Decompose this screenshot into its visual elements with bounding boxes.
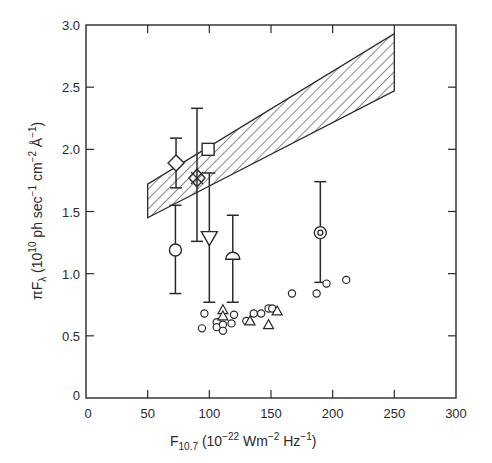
y-tick-label: 1.0 xyxy=(62,267,80,282)
tick-labels: 05010015020025030000.51.01.52.02.53.0 xyxy=(62,18,467,421)
plot-frame xyxy=(86,25,456,398)
small-circle-marker xyxy=(219,327,226,334)
y-tick-label: 3.0 xyxy=(62,18,80,33)
small-circle-marker xyxy=(288,290,295,297)
small-circle-marker xyxy=(198,325,205,332)
small-circle-marker xyxy=(313,290,320,297)
y-tick-label: 0 xyxy=(73,388,80,403)
semicircle-marker xyxy=(226,252,240,259)
small-circle-marker xyxy=(250,310,257,317)
small-circle-marker xyxy=(228,320,235,327)
hatched-band xyxy=(148,34,395,218)
small-circle-marker xyxy=(230,311,237,318)
y-axis-title: πFλ (1010 ph sec−1 cm−2 Å−1) xyxy=(27,122,48,300)
y-tick-label: 1.5 xyxy=(62,205,80,220)
y-tick-label: 0.5 xyxy=(62,329,80,344)
x-tick-label: 150 xyxy=(260,406,282,421)
x-tick-label: 0 xyxy=(84,406,91,421)
small-circle-marker xyxy=(258,310,265,317)
y-tick-label: 2.5 xyxy=(62,80,80,95)
hatched-band-area xyxy=(148,34,395,218)
bullseye-marker xyxy=(314,227,326,239)
x-tick-label: 50 xyxy=(140,406,154,421)
x-tick-label: 200 xyxy=(322,406,344,421)
y-tick-label: 2.0 xyxy=(62,142,80,157)
x-tick-label: 300 xyxy=(445,406,467,421)
small-circle-marker xyxy=(323,280,330,287)
x-tick-label: 100 xyxy=(198,406,220,421)
small-triangle-marker xyxy=(264,320,274,329)
plot-border xyxy=(86,25,456,398)
square-marker xyxy=(202,143,214,155)
chart: 05010015020025030000.51.01.52.02.53.0 F1… xyxy=(0,0,492,463)
x-axis-title: F10.7 (10−22 Wm−2 Hz−1) xyxy=(170,431,316,452)
circle-marker xyxy=(169,244,181,256)
axis-ticks xyxy=(86,25,456,398)
small-circle-marker xyxy=(201,310,208,317)
down-triangle-marker xyxy=(201,232,217,246)
small-circle-marker xyxy=(343,276,350,283)
x-tick-label: 250 xyxy=(383,406,405,421)
